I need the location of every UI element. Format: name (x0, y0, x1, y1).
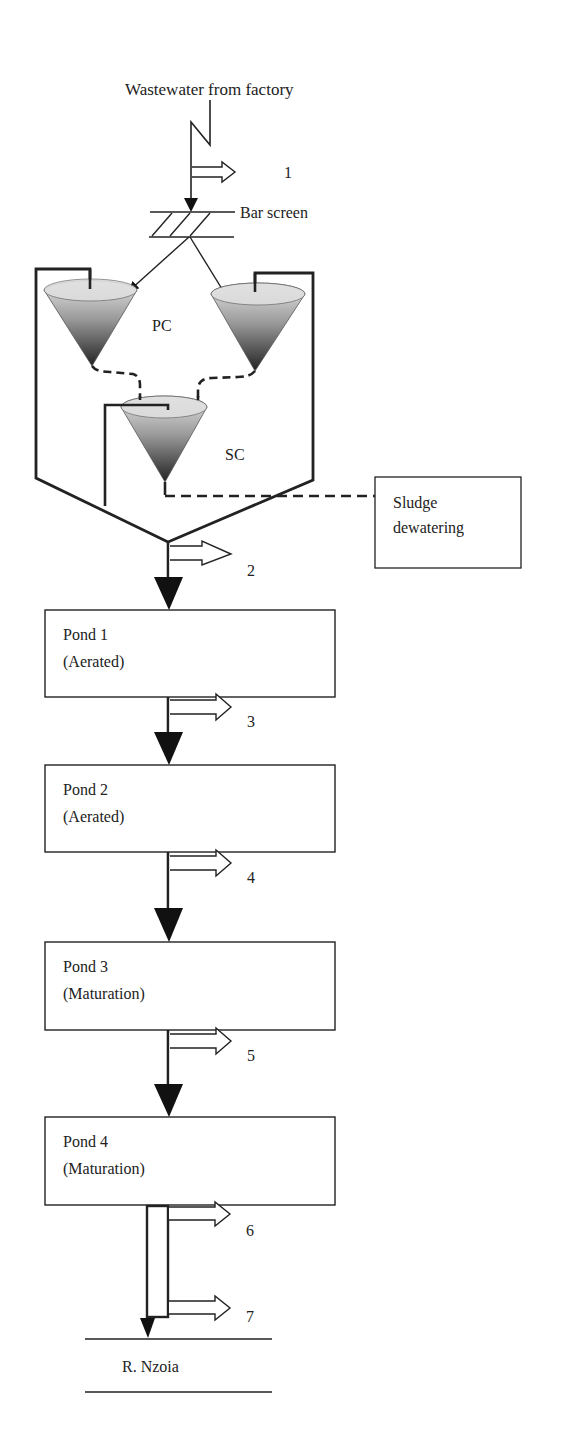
sampling-label-3: 3 (247, 713, 255, 730)
sampling-label-1: 1 (284, 164, 292, 181)
pond-2-name: Pond 2 (63, 781, 108, 798)
inlet-arrow-icon (184, 198, 198, 212)
river-label: R. Nzoia (122, 1358, 179, 1375)
bar-screen: Bar screen (149, 204, 308, 237)
sludge-label-line1: Sludge (393, 494, 437, 512)
inlet-pipe (184, 100, 210, 212)
sampling-label-2: 2 (247, 562, 255, 579)
pc-label: PC (152, 317, 172, 334)
sludge-line-pc-right-to-sc (198, 371, 255, 400)
flow-pipe-2: 2 (154, 541, 255, 610)
pond-2-type: (Aerated) (63, 808, 124, 826)
pond-4-type: (Maturation) (63, 1160, 145, 1178)
sampling-label-7: 7 (246, 1308, 254, 1325)
down-arrow-icon (154, 577, 183, 610)
title-wastewater-source: Wastewater from factory (125, 80, 294, 99)
wastewater-treatment-flow-diagram: Wastewater from factory 1 Bar screen PC (0, 0, 561, 1455)
flow-pipe-3: 3 (154, 694, 255, 765)
hollow-arrow-icon (170, 541, 231, 565)
pond-2: Pond 2 (Aerated) (45, 765, 335, 852)
secondary-clarifier (121, 396, 207, 482)
sc-label: SC (225, 446, 245, 463)
sludge-label-line2: dewatering (393, 519, 464, 537)
pond-1-name: Pond 1 (63, 626, 108, 643)
sludge-dewatering-box: Sludge dewatering (375, 477, 521, 568)
pond-3-type: (Maturation) (63, 985, 145, 1003)
hollow-arrow-icon (169, 1296, 230, 1320)
sampling-label-4: 4 (247, 869, 255, 886)
flow-arrow-to-pc-left (130, 237, 189, 290)
flow-pipe-4: 4 (154, 850, 255, 942)
down-arrow-icon (154, 732, 183, 765)
pond-4-name: Pond 4 (63, 1133, 108, 1150)
sludge-line-pc-left-to-sc (92, 366, 140, 400)
sampling-label-5: 5 (247, 1047, 255, 1064)
river-nzoia: R. Nzoia (85, 1339, 272, 1392)
final-outlet-channel: 6 7 (140, 1202, 254, 1338)
hollow-arrow-icon (170, 850, 231, 876)
down-arrow-icon (154, 908, 183, 942)
primary-clarifier-right (211, 273, 305, 371)
pond-3-name: Pond 3 (63, 958, 108, 975)
sampling-label-6: 6 (246, 1222, 254, 1239)
flow-pipe-5: 5 (154, 1028, 255, 1117)
pond-4: Pond 4 (Maturation) (45, 1117, 335, 1205)
pond-3: Pond 3 (Maturation) (45, 942, 335, 1030)
hollow-arrow-icon (170, 694, 231, 720)
primary-clarifier-left (44, 269, 137, 366)
down-arrow-icon (154, 1084, 183, 1117)
bar-screen-label: Bar screen (240, 204, 308, 221)
down-arrow-icon (140, 1318, 155, 1338)
pond-1: Pond 1 (Aerated) (45, 610, 335, 697)
hollow-arrow-icon (170, 1028, 231, 1054)
sampling-point-1: 1 (192, 162, 292, 182)
hollow-arrow-icon (192, 162, 235, 182)
pond-1-type: (Aerated) (63, 653, 124, 671)
